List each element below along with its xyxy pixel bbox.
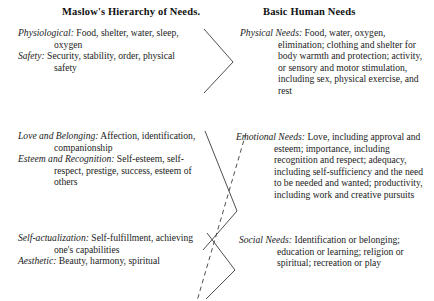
left-entry-love-belonging: Love and Belonging: Affection, identific…: [18, 130, 202, 153]
left-column-heading-text: Maslow's Hierarchy of Needs: [62, 6, 197, 17]
left-column-heading: Maslow's Hierarchy of Needs.: [62, 6, 200, 17]
left-entry-self-actualization: Self-actualization: Self-fulfillment, ac…: [18, 232, 204, 255]
bracket-love-esteem-to-emotional-icon: [203, 131, 237, 250]
left-entry-physiological: Physiological: Food, shelter, water, sle…: [18, 27, 194, 50]
right-entry-social-needs-desc: Identification or belonging; education o…: [277, 234, 404, 268]
right-entry-group-1: Physical Needs: Food, water, oxygen, eli…: [240, 27, 430, 97]
left-entry-safety-desc: Security, stability, order, physical saf…: [47, 50, 175, 73]
right-entry-social-needs: Social Needs: Identification or belongin…: [239, 234, 433, 269]
bracket-physiological-safety-to-physical-icon: [204, 29, 233, 93]
left-entry-group-3: Self-actualization: Self-fulfillment, ac…: [18, 232, 204, 267]
left-column-heading-suffix: .: [197, 6, 200, 17]
left-entry-group-2: Love and Belonging: Affection, identific…: [18, 130, 202, 188]
left-entry-group-1: Physiological: Food, shelter, water, sle…: [18, 27, 194, 73]
right-entry-group-3: Social Needs: Identification or belongin…: [239, 234, 433, 269]
diagram-canvas: Maslow's Hierarchy of Needs. Basic Human…: [0, 0, 434, 301]
right-entry-emotional-needs-term: Emotional Needs:: [236, 131, 305, 142]
right-column-heading: Basic Human Needs: [263, 6, 355, 17]
left-entry-aesthetic-term: Aesthetic:: [18, 255, 56, 266]
left-entry-safety: Safety: Security, stability, order, phys…: [18, 50, 194, 73]
right-entry-physical-needs: Physical Needs: Food, water, oxygen, eli…: [240, 27, 430, 97]
left-entry-love-belonging-term: Love and Belonging:: [18, 130, 98, 141]
right-entry-physical-needs-term: Physical Needs:: [240, 27, 302, 38]
left-entry-aesthetic-desc: Beauty, harmony, spiritual: [59, 255, 160, 266]
right-entry-group-2: Emotional Needs: Love, including approva…: [236, 131, 432, 201]
right-entry-emotional-needs: Emotional Needs: Love, including approva…: [236, 131, 432, 201]
left-entry-physiological-term: Physiological:: [18, 27, 74, 38]
left-entry-esteem-recognition-term: Esteem and Recognition:: [18, 153, 114, 164]
left-entry-esteem-recognition: Esteem and Recognition: Self-esteem, sel…: [18, 153, 202, 188]
left-entry-self-actualization-term: Self-actualization:: [18, 232, 89, 243]
left-entry-aesthetic: Aesthetic: Beauty, harmony, spiritual: [18, 255, 204, 267]
right-entry-social-needs-term: Social Needs:: [239, 234, 292, 245]
left-entry-safety-term: Safety:: [18, 50, 45, 61]
bracket-selfactualization-aesthetic-to-social-icon: [206, 233, 235, 299]
